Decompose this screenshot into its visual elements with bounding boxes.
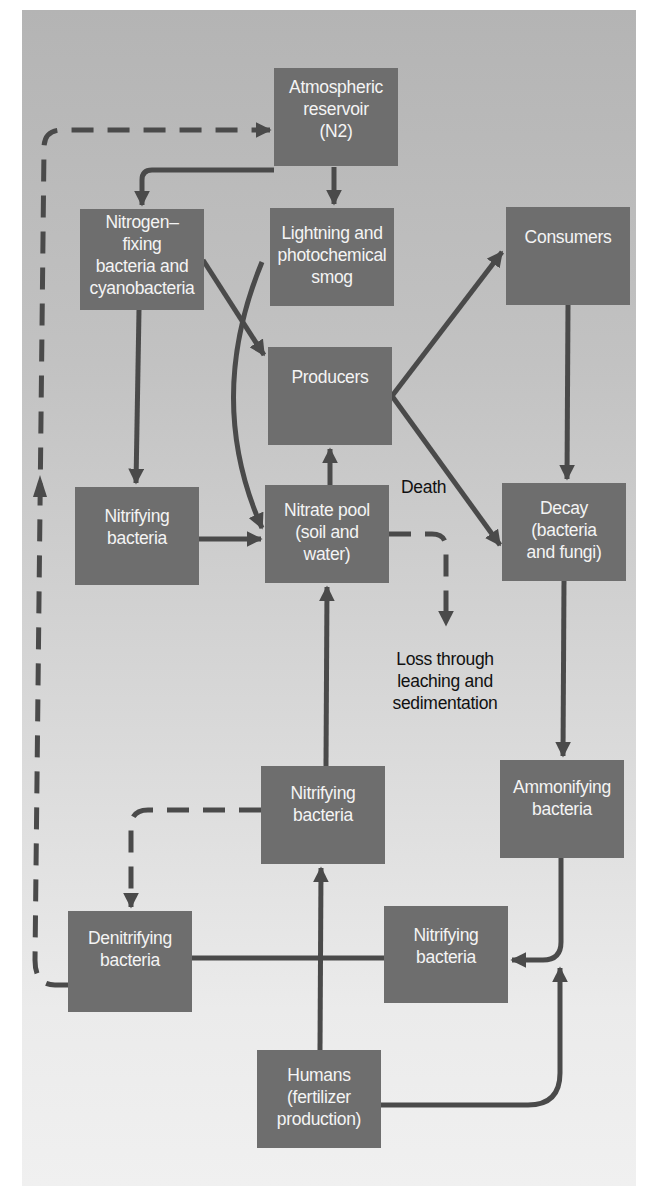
node-text: Ammonifying <box>500 776 624 798</box>
node-text: Nitrogen– <box>80 211 204 233</box>
node-text: (bacteria <box>502 519 626 541</box>
node-text: (fertilizer <box>257 1086 381 1108</box>
node-text: Nitrifying <box>384 924 508 946</box>
node-text: reservoir <box>274 98 398 120</box>
loop-up-arrowhead <box>33 475 47 497</box>
node-nitrogen-fixing-bacteria[interactable]: Nitrogen– fixing bacteria and cyanobacte… <box>80 209 204 310</box>
link-nitrifying-middle-to-nitrate-pool <box>326 587 327 766</box>
node-decay[interactable]: Decay (bacteria and fungi) <box>502 483 626 581</box>
node-text: Lightning and <box>270 222 394 244</box>
node-text: Nitrate pool <box>265 499 389 521</box>
node-text: (N2) <box>274 120 398 142</box>
node-text: (soil and <box>265 521 389 543</box>
node-text: bacteria <box>68 949 192 971</box>
node-humans-fertilizer[interactable]: Humans (fertilizer production) <box>257 1050 381 1148</box>
link-nitrifying-middle-to-denitrifying <box>131 810 261 907</box>
label-text: sedimentation <box>380 692 510 714</box>
node-text: Consumers <box>506 226 630 248</box>
node-denitrifying-bacteria[interactable]: Denitrifying bacteria <box>68 911 192 1012</box>
node-text: and fungi) <box>502 541 626 563</box>
node-text: Nitrifying <box>261 782 385 804</box>
label-text: Loss through <box>380 648 510 670</box>
node-text: Atmospheric <box>274 76 398 98</box>
node-nitrifying-bacteria-middle[interactable]: Nitrifying bacteria <box>261 766 385 864</box>
label-text: leaching and <box>380 670 510 692</box>
link-nitrate-pool-to-loss <box>389 534 446 625</box>
node-text: photochemical <box>270 244 394 266</box>
link-producers-to-decay <box>392 396 500 545</box>
node-atmospheric-reservoir[interactable]: Atmospheric reservoir (N2) <box>274 68 398 166</box>
link-nitrogen-fixing-to-nitrifying <box>136 310 139 483</box>
label-death: Death <box>401 476 446 498</box>
node-nitrifying-bacteria-left[interactable]: Nitrifying bacteria <box>75 487 199 585</box>
node-nitrifying-bacteria-bottom[interactable]: Nitrifying bacteria <box>384 906 508 1003</box>
node-text: production) <box>257 1108 381 1130</box>
link-layer <box>0 0 649 1191</box>
link-atmospheric-to-nitrogen-fixing <box>142 170 274 205</box>
node-text: Nitrifying <box>75 505 199 527</box>
node-text: Humans <box>257 1064 381 1086</box>
node-text: bacteria <box>75 527 199 549</box>
node-text: water) <box>265 543 389 565</box>
node-lightning-smog[interactable]: Lightning and photochemical smog <box>270 208 394 306</box>
node-text: bacteria <box>500 798 624 820</box>
node-text: Decay <box>502 497 626 519</box>
link-ammonifying-to-nitrifying-bottom <box>512 858 561 960</box>
node-text: smog <box>270 266 394 288</box>
link-humans-to-nitrifying-middle <box>320 868 321 1050</box>
node-text: Producers <box>268 366 392 388</box>
node-consumers[interactable]: Consumers <box>506 207 630 305</box>
label-loss-leaching: Loss through leaching and sedimentation <box>380 648 510 714</box>
node-text: Denitrifying <box>68 927 192 949</box>
node-producers[interactable]: Producers <box>268 347 392 445</box>
node-nitrate-pool[interactable]: Nitrate pool (soil and water) <box>265 485 389 583</box>
node-text: bacteria and <box>80 255 204 277</box>
link-lightning-to-nitrate-pool <box>234 262 263 528</box>
link-decay-to-ammonifying <box>563 580 564 756</box>
link-consumers-to-decay <box>567 305 568 479</box>
node-text: fixing <box>80 233 204 255</box>
node-ammonifying-bacteria[interactable]: Ammonifying bacteria <box>500 760 624 858</box>
node-text: cyanobacteria <box>80 277 204 299</box>
link-producers-to-consumers <box>392 252 502 396</box>
node-text: bacteria <box>384 946 508 968</box>
node-text: bacteria <box>261 804 385 826</box>
